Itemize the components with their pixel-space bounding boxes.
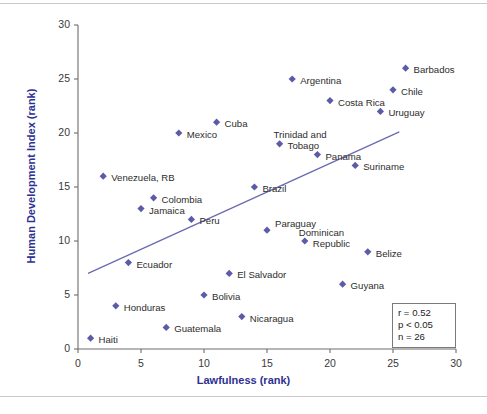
scatter-point-label: Guyana [351, 280, 385, 291]
scatter-point-label: Argentina [300, 75, 341, 86]
scatter-point-marker [289, 75, 296, 82]
scatter-point-marker [238, 313, 245, 320]
y-tick-label: 10 [32, 234, 70, 246]
scatter-point-marker [112, 302, 119, 309]
scatter-point-marker [163, 324, 170, 331]
x-tick-label: 5 [121, 357, 161, 369]
scatter-point-label: Guatemala [174, 323, 221, 334]
y-tick-label: 0 [32, 342, 70, 354]
scatter-point-label: Bolivia [212, 291, 240, 302]
x-tick-label: 10 [184, 357, 224, 369]
stat-r: r = 0.52 [398, 307, 450, 319]
x-tick-label: 15 [247, 357, 287, 369]
scatter-point-marker [364, 248, 371, 255]
scatter-point-marker [137, 205, 144, 212]
scatter-point-marker [125, 259, 132, 266]
figure-panel: HaitiVenezuela, RBHondurasEcuadorJamaica… [0, 0, 487, 414]
scatter-point-label: Uruguay [388, 107, 424, 118]
scatter-point-marker [263, 227, 270, 234]
scatter-point-marker [226, 270, 233, 277]
scatter-point-marker [200, 291, 207, 298]
scatter-point-marker [377, 108, 384, 115]
scatter-point-marker [389, 86, 396, 93]
scatter-point-label: Costa Rica [338, 97, 385, 108]
scatter-point-label: Brazil [262, 183, 286, 194]
stat-p: p < 0.05 [398, 319, 450, 331]
scatter-point-label: Venezuela, RB [111, 172, 174, 183]
y-tick-label: 20 [32, 126, 70, 138]
scatter-point-label: Ecuador [136, 259, 172, 270]
y-tick-label: 25 [32, 72, 70, 84]
scatter-point-label: Panama [325, 151, 361, 162]
scatter-point-label: DominicanRepublic [313, 227, 350, 249]
scatter-point-label: Honduras [124, 302, 166, 313]
scatter-point-marker [339, 281, 346, 288]
scatter-point-label: Trinidad andTobago [288, 129, 327, 151]
scatter-point-label: Mexico [187, 129, 217, 140]
scatter-point-marker [213, 119, 220, 126]
scatter-point-label: El Salvador [237, 269, 286, 280]
x-tick-label: 0 [58, 357, 98, 369]
scatter-point-marker [314, 151, 321, 158]
scatter-point-label: Chile [401, 86, 423, 97]
scatter-point-marker [301, 237, 308, 244]
scatter-point-marker [352, 162, 359, 169]
x-axis-label: Lawfulness (rank) [0, 374, 487, 386]
scatter-point-marker [402, 65, 409, 72]
scatter-point-label: Haiti [99, 334, 118, 345]
scatter-point-marker [87, 335, 94, 342]
scatter-point-marker [175, 129, 182, 136]
y-tick-label: 30 [32, 18, 70, 30]
statistics-box: r = 0.52 p < 0.05 n = 26 [392, 303, 456, 348]
stat-n: n = 26 [398, 331, 450, 343]
scatter-point-marker [188, 216, 195, 223]
scatter-point-label: Jamaica [149, 205, 185, 216]
x-tick-label: 25 [373, 357, 413, 369]
scatter-point-marker [150, 194, 157, 201]
x-tick-label: 20 [310, 357, 350, 369]
scatter-point-label: Barbados [414, 64, 455, 75]
scatter-point-label: Cuba [225, 118, 248, 129]
scatter-point-label: Peru [199, 215, 219, 226]
scatter-plot: HaitiVenezuela, RBHondurasEcuadorJamaica… [0, 0, 487, 414]
scatter-point-label: Belize [376, 248, 402, 259]
scatter-point-marker [276, 140, 283, 147]
scatter-point-label: Nicaragua [250, 313, 294, 324]
x-tick-label: 30 [436, 357, 476, 369]
scatter-point-marker [251, 183, 258, 190]
y-tick-label: 15 [32, 180, 70, 192]
scatter-point-label: Colombia [162, 194, 203, 205]
y-axis-label: Human Development Index (rank) [25, 51, 37, 301]
y-tick-label: 5 [32, 288, 70, 300]
scatter-point-marker [100, 173, 107, 180]
scatter-point-label: Suriname [363, 161, 404, 172]
chart-canvas [0, 0, 487, 414]
scatter-point-marker [326, 97, 333, 104]
